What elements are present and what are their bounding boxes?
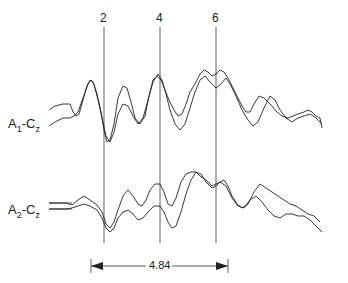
arrowhead-left-icon: [91, 262, 103, 270]
marker-label-6: 6: [212, 12, 219, 24]
a2-cz-trace-2: [49, 172, 322, 232]
waveform-canvas: [0, 0, 348, 283]
measurement-label: 4.84: [147, 260, 172, 271]
arrowhead-right-icon: [216, 262, 228, 270]
marker-label-2: 2: [100, 12, 107, 24]
channel-label-a2-cz: A2-Cz: [8, 203, 40, 220]
marker-label-4: 4: [156, 12, 163, 24]
eeg-figure: 2 4 6 A1-Cz A2-Cz 4.84: [0, 0, 348, 283]
channel-label-a1-cz: A1-Cz: [8, 117, 40, 134]
a1-cz-trace-2: [49, 74, 322, 142]
